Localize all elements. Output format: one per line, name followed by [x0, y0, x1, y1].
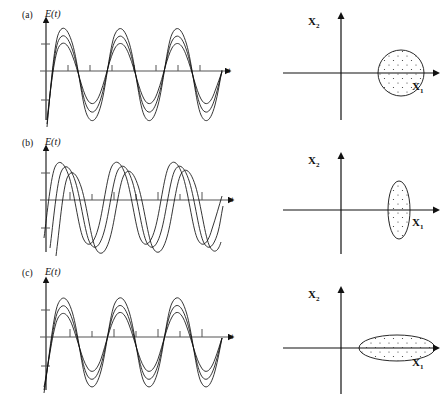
panel-a-uncertainty-region — [378, 50, 424, 96]
panel-b-waves — [44, 162, 223, 256]
panel-a: (a) E(t) t X2 X1 — [0, 0, 448, 130]
panel-a-graphics — [0, 0, 448, 130]
panel-b-phase-axes — [283, 158, 434, 254]
figure-container: (a) E(t) t X2 X1 — [0, 0, 448, 400]
panel-b-uncertainty-region — [388, 181, 410, 239]
panel-b-wave-axes — [40, 150, 229, 252]
panel-a-waves — [47, 28, 222, 127]
panel-c: (c) E(t) t X2 X1 — [0, 260, 448, 390]
panel-b: (b) E(t) t X2 X1 — [0, 130, 448, 260]
caption-remnant — [0, 388, 448, 400]
panel-c-graphics — [0, 260, 448, 400]
panel-c-uncertainty-region — [359, 335, 435, 361]
panel-c-waves — [44, 298, 222, 393]
panel-b-graphics — [0, 130, 448, 260]
